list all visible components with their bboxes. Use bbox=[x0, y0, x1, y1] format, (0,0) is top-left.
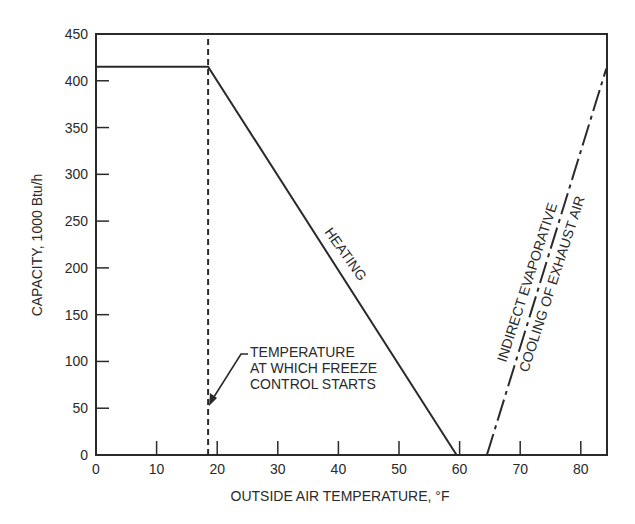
x-tick-label: 60 bbox=[452, 461, 468, 477]
y-tick-label: 150 bbox=[65, 307, 89, 323]
cooling-series-line bbox=[487, 69, 606, 455]
freeze-annotation-line2: AT WHICH FREEZE bbox=[250, 360, 377, 376]
y-tick-label: 50 bbox=[72, 400, 88, 416]
x-tick-label: 70 bbox=[512, 461, 528, 477]
x-axis-title: OUTSIDE AIR TEMPERATURE, °F bbox=[231, 488, 450, 504]
x-tick-label: 20 bbox=[209, 461, 225, 477]
x-tick-label: 0 bbox=[92, 461, 100, 477]
capacity-chart: 050100150200250300350400450 010203040506… bbox=[0, 0, 635, 524]
x-tick-label: 50 bbox=[391, 461, 407, 477]
freeze-annotation-leader bbox=[212, 354, 248, 400]
y-tick-label: 350 bbox=[65, 120, 89, 136]
y-tick-label: 400 bbox=[65, 73, 89, 89]
freeze-annotation-line1: TEMPERATURE bbox=[250, 344, 355, 360]
freeze-annotation-line3: CONTROL STARTS bbox=[250, 376, 376, 392]
x-tick-label: 80 bbox=[573, 461, 589, 477]
x-axis-ticks: 01020304050607080 bbox=[92, 441, 589, 477]
y-tick-label: 250 bbox=[65, 213, 89, 229]
y-tick-label: 200 bbox=[65, 260, 89, 276]
y-axis-title: CAPACITY, 1000 Btu/h bbox=[29, 174, 45, 317]
heating-series-line bbox=[96, 67, 457, 455]
x-tick-label: 30 bbox=[270, 461, 286, 477]
y-tick-label: 0 bbox=[80, 447, 88, 463]
x-tick-label: 40 bbox=[331, 461, 347, 477]
y-tick-label: 300 bbox=[65, 166, 89, 182]
y-tick-label: 100 bbox=[65, 353, 89, 369]
x-tick-label: 10 bbox=[149, 461, 165, 477]
y-axis-ticks: 050100150200250300350400450 bbox=[65, 26, 109, 463]
y-tick-label: 450 bbox=[65, 26, 89, 42]
